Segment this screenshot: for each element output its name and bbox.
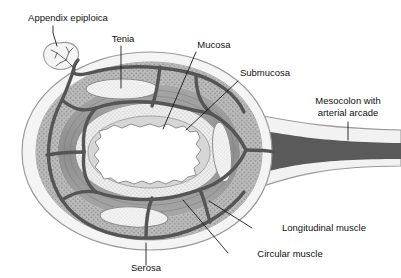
- label-mesocolon-text-line2: arterial arcade: [318, 107, 379, 118]
- label-mucosa-text: Mucosa: [197, 39, 231, 50]
- label-longitudinal-muscle-text: Longitudinal muscle: [282, 222, 366, 233]
- label-tenia-text: Tenia: [112, 33, 135, 44]
- lumen-cavity: [94, 124, 201, 184]
- colon-cross-section-illustration: Appendix epiploica Tenia Mucosa Submucos…: [0, 0, 401, 278]
- tenia-superior: [86, 79, 158, 99]
- mucosa-and-lumen: [88, 116, 210, 188]
- label-appendix-epiploica: Appendix epiploica: [28, 12, 108, 46]
- vessel-mesenteric-trunk: [246, 150, 274, 152]
- label-serosa-text: Serosa: [131, 262, 162, 273]
- label-submucosa-text: Submucosa: [240, 67, 291, 78]
- label-appendix-epiploica-text: Appendix epiploica: [28, 12, 108, 23]
- label-circular-muscle-text: Circular muscle: [257, 248, 322, 259]
- anatomy-figure: Appendix epiploica Tenia Mucosa Submucos…: [0, 0, 401, 278]
- label-mesocolon-text-line1: Mesocolon with: [315, 95, 380, 106]
